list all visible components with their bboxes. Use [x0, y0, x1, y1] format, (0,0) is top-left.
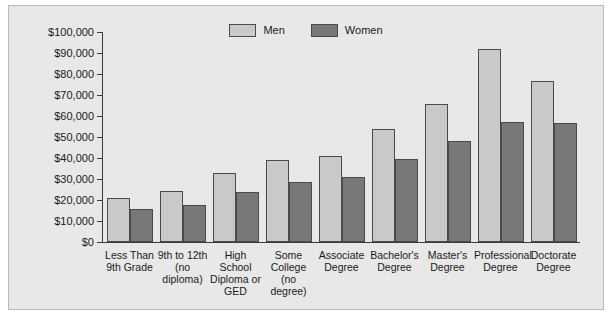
bars-layer [103, 32, 580, 242]
bar-men[interactable] [319, 156, 342, 242]
bar-men[interactable] [107, 198, 130, 242]
y-axis-tick-label: $50,000 [54, 131, 94, 143]
bar-men[interactable] [531, 81, 554, 242]
x-axis-label-line: Degree [421, 261, 474, 273]
y-axis-tick-label: $100,000 [48, 26, 94, 38]
y-axis-tick-label: $90,000 [54, 47, 94, 59]
x-axis-label-line: Degree [474, 261, 527, 273]
y-axis-tick-label: $80,000 [54, 68, 94, 80]
y-axis-tick-mark [97, 200, 102, 201]
bar-women[interactable] [289, 182, 312, 242]
bar-women[interactable] [448, 141, 471, 242]
bar-men[interactable] [266, 160, 289, 242]
bar-women[interactable] [342, 177, 365, 242]
y-axis-tick-label: $60,000 [54, 110, 94, 122]
y-axis-tick-label: $0 [82, 236, 94, 248]
x-axis-label: Master'sDegree [421, 249, 474, 273]
bar-group [160, 32, 206, 242]
bar-group [372, 32, 418, 242]
x-axis-label: Bachelor'sDegree [368, 249, 421, 273]
bar-men[interactable] [478, 49, 501, 242]
y-axis-tick-mark [97, 74, 102, 75]
y-axis-tick-mark [97, 179, 102, 180]
x-axis-label: High SchoolDiploma orGED [209, 249, 262, 297]
y-axis-tick-mark [97, 221, 102, 222]
x-axis-label-line: Associate [315, 249, 368, 261]
plot-area: $100,000$90,000$80,000$70,000$60,000$50,… [102, 32, 580, 243]
bar-group [107, 32, 153, 242]
x-axis-label-line: Degree [527, 261, 580, 273]
bar-group [478, 32, 524, 242]
y-axis-tick-mark [97, 32, 102, 33]
x-axis-label-line: 9th to 12th [156, 249, 209, 261]
x-axis-label-line: Degree [368, 261, 421, 273]
x-axis-labels: Less Than9th Grade9th to 12th(no diploma… [103, 249, 581, 304]
bar-group [266, 32, 312, 242]
y-axis-tick-mark [97, 158, 102, 159]
chart-panel: Men Women $100,000$90,000$80,000$70,000$… [8, 5, 604, 310]
y-axis-tick-mark [97, 95, 102, 96]
x-axis-label-line: Doctorate [527, 249, 580, 261]
x-axis-label-line: 9th Grade [103, 261, 156, 273]
x-axis-label: AssociateDegree [315, 249, 368, 273]
x-axis-label: 9th to 12th(no diploma) [156, 249, 209, 285]
bar-group [319, 32, 365, 242]
bar-women[interactable] [130, 209, 153, 242]
x-axis-label-line: (no degree) [262, 273, 315, 297]
x-axis-label-line: College [262, 261, 315, 273]
x-axis-label: Less Than9th Grade [103, 249, 156, 273]
y-axis-tick-label: $40,000 [54, 152, 94, 164]
x-axis-label-line: Master's [421, 249, 474, 261]
bar-group [425, 32, 471, 242]
x-axis-label-line: Professional [474, 249, 527, 261]
bar-women[interactable] [501, 122, 524, 242]
x-axis-line [102, 242, 580, 243]
y-axis-tick-mark [97, 137, 102, 138]
x-axis-label-line: Some [262, 249, 315, 261]
bar-men[interactable] [372, 129, 395, 242]
x-axis-label-line: High School [209, 249, 262, 273]
y-axis-tick-mark [97, 242, 102, 243]
bar-women[interactable] [236, 192, 259, 242]
y-axis-tick-label: $10,000 [54, 215, 94, 227]
x-axis-label-line: Degree [315, 261, 368, 273]
bar-men[interactable] [213, 173, 236, 242]
x-axis-label: SomeCollege(no degree) [262, 249, 315, 297]
bar-group [213, 32, 259, 242]
y-axis-tick-mark [97, 116, 102, 117]
bar-women[interactable] [554, 123, 577, 242]
y-axis-tick-mark [97, 53, 102, 54]
x-axis-label-line: Bachelor's [368, 249, 421, 261]
bar-group [531, 32, 577, 242]
x-axis-label-line: Diploma or [209, 273, 262, 285]
x-axis-label-line: Less Than [103, 249, 156, 261]
y-axis-tick-label: $30,000 [54, 173, 94, 185]
bar-men[interactable] [160, 191, 183, 242]
x-axis-label-line: (no diploma) [156, 261, 209, 285]
x-axis-label: ProfessionalDegree [474, 249, 527, 273]
bar-men[interactable] [425, 104, 448, 242]
bar-women[interactable] [183, 205, 206, 242]
y-axis-tick-label: $70,000 [54, 89, 94, 101]
x-axis-label: DoctorateDegree [527, 249, 580, 273]
x-axis-label-line: GED [209, 285, 262, 297]
bar-women[interactable] [395, 159, 418, 242]
y-axis-tick-label: $20,000 [54, 194, 94, 206]
